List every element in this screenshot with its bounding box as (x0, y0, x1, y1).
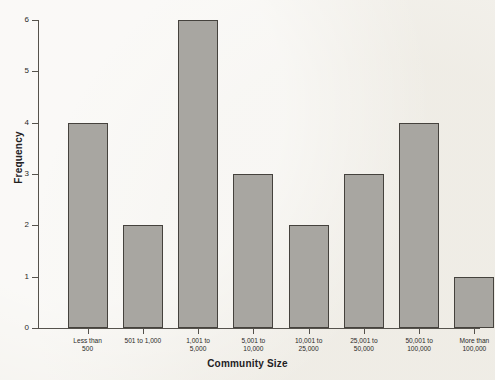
bar (178, 20, 218, 328)
x-axis-tick-label-line: 50,001 to (405, 337, 433, 345)
x-axis-tick-label: More than100,000 (460, 337, 490, 354)
x-axis-tick (88, 328, 89, 334)
y-axis-tick-label: 5 (25, 66, 29, 75)
x-axis-tick (419, 328, 420, 334)
bar (399, 123, 439, 328)
x-axis-tick-label-line: 10,001 to (295, 337, 323, 345)
x-axis-tick-label-line: 50,000 (350, 345, 378, 353)
y-axis-tick-label: 6 (25, 15, 29, 24)
x-axis-tick-label: 5,001 to10,000 (241, 337, 265, 354)
x-axis-tick-label-line: Less than (73, 337, 102, 345)
x-axis-tick (309, 328, 310, 334)
x-axis-tick-label-line: 501 to 1,000 (125, 337, 162, 345)
bar (68, 123, 108, 328)
bar (289, 225, 329, 328)
bar-chart: Frequency 0123456 Less than500501 to 1,0… (0, 0, 495, 380)
x-axis-tick-label-line: 1,001 to (186, 337, 210, 345)
x-axis-tick-label-line: More than (460, 337, 490, 345)
x-axis-tick-label-line: 25,000 (295, 345, 323, 353)
y-axis-tick-label: 4 (25, 118, 29, 127)
x-axis-tick-label: 10,001 to25,000 (295, 337, 323, 354)
y-axis-tick-label: 1 (25, 272, 29, 281)
x-axis-tick-label: Less than500 (73, 337, 102, 354)
bar (344, 174, 384, 328)
x-axis-tick (364, 328, 365, 334)
x-axis-line (38, 328, 480, 329)
x-axis-tick-label: 501 to 1,000 (125, 337, 162, 345)
x-axis-tick-label: 50,001 to100,000 (405, 337, 433, 354)
x-axis-tick-label-line: 5,001 to (241, 337, 265, 345)
x-axis-tick (143, 328, 144, 334)
y-axis-tick-label: 3 (25, 169, 29, 178)
x-axis-tick-label-line: 25,001 to (350, 337, 378, 345)
plot-area (38, 20, 480, 328)
y-axis-tick-label: 2 (25, 220, 29, 229)
x-axis-tick (253, 328, 254, 334)
y-axis-title: Frequency (13, 103, 24, 213)
y-axis-tick-label: 0 (25, 323, 29, 332)
x-axis-tick-label-line: 500 (73, 345, 102, 353)
x-axis-tick (474, 328, 475, 334)
x-axis-tick-label: 1,001 to5,000 (186, 337, 210, 354)
bar (123, 225, 163, 328)
x-axis-title: Community Size (0, 358, 495, 369)
y-axis-tick: 0 (32, 328, 39, 329)
bar (233, 174, 273, 328)
bar (454, 277, 494, 328)
x-axis-tick-label-line: 100,000 (405, 345, 433, 353)
x-axis-tick-label-line: 5,000 (186, 345, 210, 353)
x-axis-tick-label-line: 100,000 (460, 345, 490, 353)
x-axis-tick-label-line: 10,000 (241, 345, 265, 353)
x-axis-tick-label: 25,001 to50,000 (350, 337, 378, 354)
x-axis-tick (198, 328, 199, 334)
